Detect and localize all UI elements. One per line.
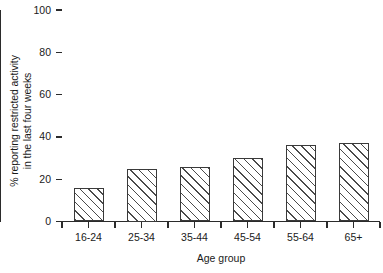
bar [127,169,157,222]
y-tick-mark [56,9,62,10]
y-tick-mark [56,52,62,53]
bar [339,143,369,221]
bar-chart: % reporting restricted activity in the l… [0,0,383,273]
x-axis-title: Age group [62,252,380,264]
x-tick-mark [114,222,115,228]
x-category-label: 65+ [324,231,383,243]
bar [286,145,316,221]
y-axis-line [0,10,1,222]
y-tick-label: 20 [18,174,51,185]
y-tick-mark [56,136,62,137]
x-category-label: 35-44 [165,231,225,243]
y-tick-label: 100 [18,5,51,16]
x-tick-mark [61,222,62,228]
x-category-label: 45-54 [218,231,278,243]
x-tick-mark [167,222,168,228]
x-tick-mark-center [353,222,354,228]
bar [74,188,104,222]
x-category-label: 16-24 [59,231,119,243]
y-tick-label: 80 [18,47,51,58]
x-category-label: 55-64 [271,231,331,243]
bar [180,167,210,222]
x-tick-mark-center [194,222,195,228]
y-tick-mark [56,179,62,180]
y-tick-label: 60 [18,89,51,100]
y-tick-mark [56,94,62,95]
bar [233,158,263,221]
x-tick-mark-center [88,222,89,228]
x-tick-mark [379,222,380,228]
x-tick-mark [326,222,327,228]
x-tick-mark-center [300,222,301,228]
x-category-label: 25-34 [112,231,172,243]
x-tick-mark-center [247,222,248,228]
y-tick-label: 0 [18,216,51,227]
x-tick-mark [220,222,221,228]
x-tick-mark [273,222,274,228]
y-tick-label: 40 [18,131,51,142]
x-tick-mark-center [141,222,142,228]
